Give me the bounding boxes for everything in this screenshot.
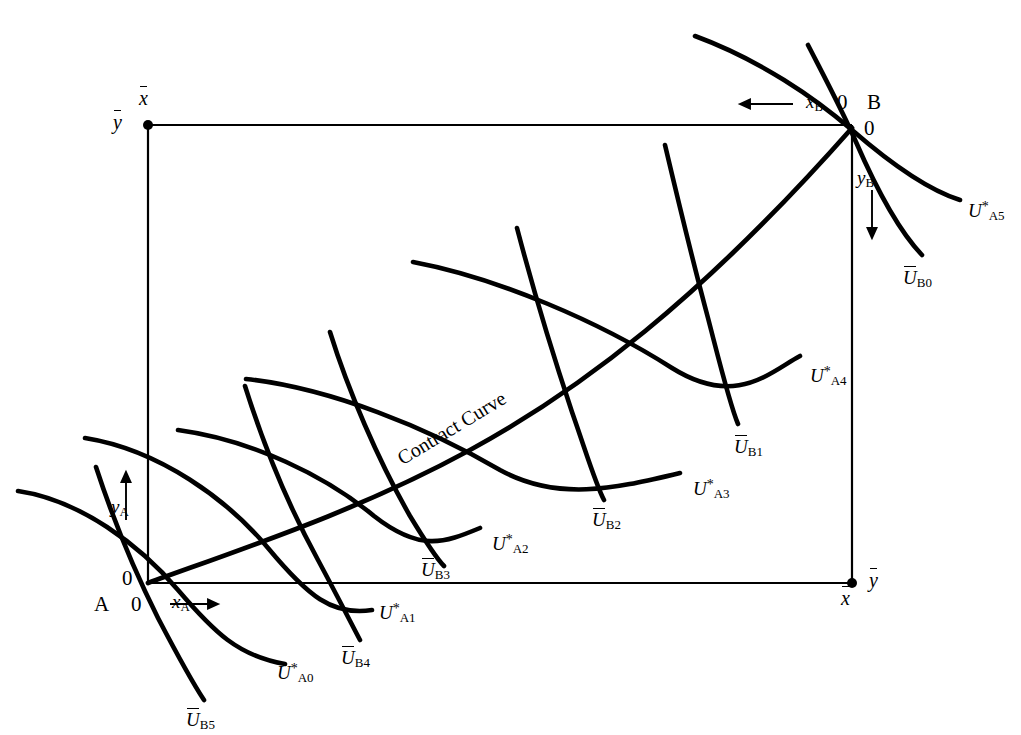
- x-b-arrow-head: [740, 100, 750, 109]
- endowment-label-top-left-y: y: [113, 112, 122, 132]
- endowment-label-bottom-right-x: x: [841, 588, 850, 608]
- curve-label-UB1: UB1: [734, 437, 763, 458]
- origin-a-zero-lower: 0: [131, 594, 142, 615]
- curve-label-UB3: UB3: [421, 560, 450, 581]
- curve-label-UA5: U*A5: [968, 200, 1005, 222]
- curve-label-UA4: U*A4: [810, 365, 847, 387]
- consumer-b-indifference-curves: [96, 45, 922, 700]
- curve-label-UB0: UB0: [903, 268, 932, 289]
- origin-a-label: A: [94, 594, 109, 615]
- box-frame: [143, 120, 857, 588]
- origin-b-label: B: [867, 92, 881, 113]
- endowment-label-bottom-right-y: y: [869, 570, 878, 590]
- y-a-arrow-head: [122, 472, 131, 482]
- y-b-arrow-head: [868, 228, 877, 238]
- x-a-axis-label: xA: [172, 592, 190, 613]
- endowment-label-top-left-x: x: [139, 88, 148, 108]
- curve-UA4: [413, 262, 800, 386]
- curve-label-UA1: U*A1: [379, 602, 416, 624]
- curve-label-UA2: U*A2: [492, 533, 529, 555]
- x-b-axis-label: xB: [806, 92, 823, 113]
- curve-UB0: [808, 45, 922, 255]
- curve-label-UA0: U*A0: [277, 662, 314, 684]
- consumer-a-indifference-curves: [18, 36, 960, 664]
- y-a-axis-label: yA: [111, 497, 129, 518]
- curve-label-UA3: U*A3: [693, 478, 730, 500]
- curve-label-UB2: UB2: [592, 510, 621, 531]
- origin-b-zero-upper: 0: [837, 92, 848, 113]
- curve-UA5: [695, 36, 960, 200]
- curve-label-UB5: UB5: [186, 710, 215, 731]
- origin-b-zero-lower: 0: [864, 118, 875, 139]
- y-b-axis-label: yB: [857, 168, 874, 189]
- corner-dot-top-left: [143, 120, 153, 130]
- origin-a-zero-upper: 0: [122, 568, 133, 589]
- contract-curve: [148, 128, 852, 583]
- curve-UA0: [18, 491, 285, 664]
- contract-curve-path: [148, 128, 852, 583]
- figure-canvas: y x x y 0 A 0 xA yA 0 B 0 xB yB Contract…: [0, 0, 1021, 735]
- x-a-arrow-head: [208, 600, 218, 609]
- curve-UB4: [245, 386, 360, 640]
- curve-UB2: [517, 228, 604, 500]
- curve-label-UB4: UB4: [341, 648, 370, 669]
